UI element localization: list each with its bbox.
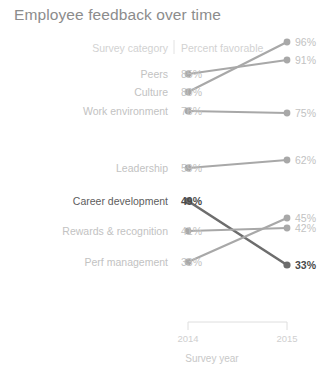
x-tick-2015: 2015 <box>276 333 297 344</box>
x-axis-bracket <box>188 322 287 330</box>
data-point-2015[interactable] <box>284 215 291 222</box>
value-label-2014: 85% <box>181 68 202 80</box>
category-label: Leadership <box>116 162 168 174</box>
value-label-2015: 62% <box>295 154 316 166</box>
category-label: Peers <box>141 68 168 80</box>
value-label-2015: 91% <box>295 54 316 66</box>
value-label-2014: 59% <box>181 162 202 174</box>
slope-line[interactable] <box>188 228 287 231</box>
value-label-2014: 49% <box>181 195 203 207</box>
data-point-2015[interactable] <box>284 57 291 64</box>
x-tick-2014: 2014 <box>177 333 198 344</box>
data-point-2015[interactable] <box>284 39 291 46</box>
column-header-value: Percent favorable <box>181 42 263 54</box>
data-point-2015[interactable] <box>284 157 291 164</box>
value-label-2014: 76% <box>181 105 202 117</box>
value-label-2014: 80% <box>181 86 202 98</box>
value-label-2015: 33% <box>295 259 317 271</box>
data-point-2015[interactable] <box>284 225 291 232</box>
slope-line[interactable] <box>188 160 287 168</box>
data-point-2015[interactable] <box>284 110 291 117</box>
category-label: Culture <box>134 86 168 98</box>
value-label-2015: 96% <box>295 36 316 48</box>
value-label-2014: 41% <box>181 225 202 237</box>
data-point-2015[interactable] <box>283 261 290 268</box>
chart-plot-area: Survey category Percent favorable Peers8… <box>0 0 336 377</box>
column-header-category: Survey category <box>92 42 169 54</box>
category-label: Work environment <box>83 105 168 117</box>
value-label-2015: 75% <box>295 107 316 119</box>
category-label: Career development <box>73 195 168 207</box>
value-label-2015: 45% <box>295 212 316 224</box>
category-label: Rewards & recognition <box>62 225 168 237</box>
category-label: Perf management <box>85 256 169 268</box>
value-label-2014: 33% <box>181 256 202 268</box>
label-layer: Peers85%91%Culture80%96%Work environment… <box>62 36 316 271</box>
slope-line[interactable] <box>188 111 287 113</box>
slope-chart: Employee feedback over time Survey categ… <box>0 0 336 377</box>
x-axis-title: Survey year <box>185 353 239 364</box>
